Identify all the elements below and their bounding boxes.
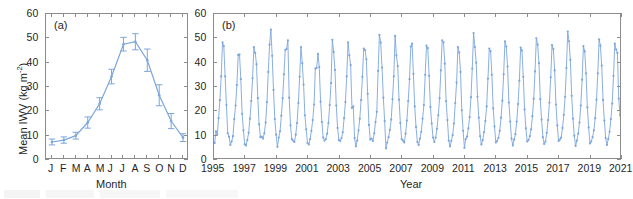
panel-b-ytick-label: 50 — [195, 32, 207, 43]
panel-a-xtick — [170, 155, 171, 159]
panel-a-ytick-right — [184, 86, 188, 87]
panel-a-ytick-label: 10 — [27, 130, 39, 141]
panel-b-xtick-label: 2007 — [389, 163, 412, 174]
panel-b-xtick — [401, 155, 402, 159]
panel-a-xtick — [182, 155, 183, 159]
panel-b-xtick-label: 1995 — [201, 163, 224, 174]
panel-b-xtick-label: 2003 — [327, 163, 350, 174]
panel-a-ytick-label: 60 — [27, 8, 39, 19]
panel-b-ytick — [213, 86, 217, 87]
panel-a-ytick-right — [184, 37, 188, 38]
panel-b-xtick-label: 2001 — [295, 163, 318, 174]
panel-b-xtick-top — [433, 13, 434, 17]
panel-a-xtick-top — [146, 13, 147, 17]
panel-a-xtick — [122, 155, 123, 159]
panel-b-ytick-right — [617, 110, 621, 111]
panel-a-ytick-right — [184, 110, 188, 111]
panel-a-xtick-label: D — [179, 163, 187, 174]
panel-a-xtick-label: J — [119, 163, 124, 174]
panel-a-ytick — [45, 110, 49, 111]
panel-a-xtick-label: A — [84, 163, 91, 174]
panel-b-xtick — [307, 155, 308, 159]
panel-b-xtick-label: 1999 — [264, 163, 287, 174]
panel-b-xtick — [621, 155, 622, 159]
panel-b-plot-area — [213, 13, 621, 159]
panel-b-xtick-top — [621, 13, 622, 17]
panel-a-ytick — [45, 37, 49, 38]
panel-a-xtick-top — [182, 13, 183, 17]
panel-b-xtick-label: 2011 — [452, 163, 475, 174]
panel-b-xtick-top — [495, 13, 496, 17]
panel-b-xtick — [495, 155, 496, 159]
panel-b-ytick — [213, 135, 217, 136]
panel-b-xtick — [213, 155, 214, 159]
panel-a-ytick-right — [184, 13, 188, 14]
panel-b-xtick-label: 2005 — [358, 163, 381, 174]
panel-b-xtick-top — [590, 13, 591, 17]
panel-a-ytick — [45, 13, 49, 14]
panel-a-xtick-label: S — [143, 163, 150, 174]
panel-b-xtick-label: 2015 — [515, 163, 538, 174]
panel-a-ytick-right — [184, 159, 188, 160]
panel-a-ytick-right — [184, 135, 188, 136]
panel-a-xtick-label: M — [96, 163, 105, 174]
panel-b-xtick-top — [558, 13, 559, 17]
panel-a-xtick-top — [75, 13, 76, 17]
panel-b-svg — [214, 14, 621, 159]
panel-b-xtick — [527, 155, 528, 159]
panel-a-xtick-label: J — [48, 163, 53, 174]
panel-b-tag: (b) — [222, 19, 235, 31]
panel-b-ytick-right — [617, 135, 621, 136]
panel-b-xtick — [339, 155, 340, 159]
panel-b-xtick — [370, 155, 371, 159]
panel-a-ytick-label: 0 — [33, 154, 39, 165]
caption-fragment — [4, 190, 304, 198]
panel-b-ytick — [213, 62, 217, 63]
panel-a-ytick-label: 40 — [27, 57, 39, 68]
panel-b-ytick — [213, 37, 217, 38]
panel-b-xtick — [433, 155, 434, 159]
panel-b-xtick-top — [213, 13, 214, 17]
panel-a-xtick-top — [63, 13, 64, 17]
panel-b-xtick-label: 2019 — [578, 163, 601, 174]
panel-a-xtick — [87, 155, 88, 159]
figure-container: Mean IWV (kg m-2) (a) 0102030405060 JFMA… — [0, 0, 633, 199]
panel-b-xtick — [590, 155, 591, 159]
panel-a-ytick-label: 30 — [27, 81, 39, 92]
panel-a-xtick-top — [158, 13, 159, 17]
panel-a-xtick-top — [111, 13, 112, 17]
panel-b-xtick — [276, 155, 277, 159]
panel-b-xtick-top — [527, 13, 528, 17]
panel-a-xtick — [111, 155, 112, 159]
panel-a-xtick — [63, 155, 64, 159]
panel-b-xtick-label: 2017 — [546, 163, 569, 174]
panel-b-xtick-top — [276, 13, 277, 17]
panel-b-xtick-top — [339, 13, 340, 17]
panel-a-xtick-label: O — [155, 163, 163, 174]
panel-a-xtick-top — [134, 13, 135, 17]
panel-b-ytick-right — [617, 159, 621, 160]
panel-a-xtick — [146, 155, 147, 159]
panel-b-xtick — [464, 155, 465, 159]
panel-b-xtick-top — [370, 13, 371, 17]
panel-a-xtick — [75, 155, 76, 159]
panel-a-xtick — [134, 155, 135, 159]
panel-b-ytick-label: 10 — [195, 130, 207, 141]
panel-b-ytick-right — [617, 37, 621, 38]
panel-b-ytick-label: 30 — [195, 81, 207, 92]
panel-b-xtick-label: 2009 — [421, 163, 444, 174]
panel-b-xlabel: Year — [400, 178, 422, 190]
panel-a-xtick-label: J — [108, 163, 113, 174]
panel-b-xtick-label: 1997 — [232, 163, 255, 174]
ylabel-exponent: -2 — [15, 66, 24, 73]
panel-a-xtick-top — [170, 13, 171, 17]
panel-a-tag: (a) — [54, 19, 67, 31]
panel-a-ytick — [45, 62, 49, 63]
panel-a-ytick-label: 50 — [27, 32, 39, 43]
panel-a-xtick-label: F — [60, 163, 66, 174]
panel-a-xtick-top — [87, 13, 88, 17]
panel-b-ytick-label: 60 — [195, 8, 207, 19]
panel-a-xtick-top — [99, 13, 100, 17]
panel-a-xtick — [99, 155, 100, 159]
panel-b-ytick-label: 20 — [195, 105, 207, 116]
